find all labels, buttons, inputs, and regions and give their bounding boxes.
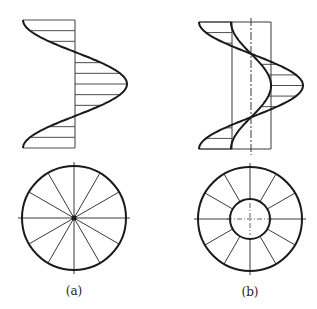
panel-b-plan-circle	[194, 163, 306, 275]
caption-b: (b)	[241, 285, 258, 299]
helix-diagram	[0, 0, 317, 309]
division-line	[29, 218, 74, 244]
division-line	[205, 193, 233, 209]
division-line	[48, 173, 74, 218]
panel-a-elevation	[23, 20, 127, 148]
division-line	[224, 236, 240, 264]
division-line	[29, 192, 74, 218]
caption-a: (a)	[66, 284, 83, 298]
panel-b-elevation	[199, 18, 303, 155]
division-line	[205, 229, 233, 245]
division-line	[48, 218, 74, 263]
division-line	[267, 193, 295, 209]
division-line	[74, 192, 119, 218]
division-line	[260, 236, 276, 264]
division-line	[260, 174, 276, 202]
division-line	[74, 218, 100, 263]
division-line	[267, 229, 295, 245]
division-line	[224, 174, 240, 202]
division-line	[74, 218, 119, 244]
center-dot	[72, 216, 77, 221]
panel-a-plan-circle	[18, 162, 130, 274]
division-line	[74, 173, 100, 218]
